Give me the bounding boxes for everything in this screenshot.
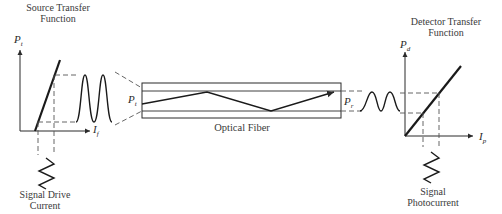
detector-x-axis-label: Ip [479, 130, 486, 145]
fiber-input-power-label: Pt [128, 93, 137, 108]
source-x-axis-label: If [93, 123, 99, 138]
source-title: Source Transfer Function [18, 2, 98, 24]
optical-fiber [142, 83, 341, 118]
source-projection-lines [38, 75, 77, 155]
detector-y-axis-label: Pd [400, 38, 410, 53]
signal-photocurrent-label: Signal Photocurrent [400, 186, 466, 208]
source-transfer-curve [35, 60, 60, 131]
source-transfer-plot [20, 50, 90, 189]
signal-drive-current-label: Signal Drive Current [10, 189, 80, 211]
drive-current-waveform [39, 158, 54, 189]
source-y-axis-label: Pt [14, 33, 23, 48]
detector-transfer-plot [400, 52, 473, 183]
source-output-pulse [76, 75, 112, 122]
photocurrent-waveform [424, 152, 439, 183]
detector-transfer-curve [405, 66, 461, 136]
fiber-output-power-label: Pr [344, 95, 353, 110]
detector-title: Detector Transfer Function [406, 16, 486, 38]
optical-fiber-label: Optical Fiber [206, 122, 278, 133]
received-pulse [360, 92, 400, 111]
light-ray-path [142, 92, 334, 111]
